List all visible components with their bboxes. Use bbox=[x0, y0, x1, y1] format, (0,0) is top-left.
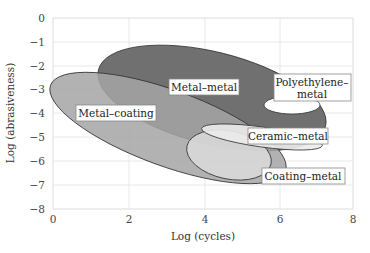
svg-text:4: 4 bbox=[202, 213, 209, 225]
svg-text:−1: −1 bbox=[30, 36, 45, 48]
svg-text:−5: −5 bbox=[30, 131, 45, 143]
y-axis-ticks: 0 −1 −2 −3 −4 −5 −6 −7 −8 bbox=[30, 12, 46, 215]
label-metal-coating: Metal–coating bbox=[78, 107, 154, 119]
y-axis-label: Log (abrasiveness) bbox=[4, 63, 16, 163]
svg-text:0: 0 bbox=[38, 12, 45, 24]
x-axis-ticks: 0 2 4 6 8 bbox=[50, 213, 357, 225]
svg-text:2: 2 bbox=[126, 213, 133, 225]
svg-text:−4: −4 bbox=[30, 107, 46, 119]
label-polyethylene-metal-line1: Polyethylene– bbox=[275, 76, 348, 88]
svg-text:−6: −6 bbox=[30, 155, 46, 167]
label-polyethylene-metal-line2: metal bbox=[297, 88, 328, 100]
svg-text:6: 6 bbox=[277, 213, 284, 225]
chart-canvas: Metal–coating Metal–metal Polyethylene– … bbox=[0, 0, 370, 253]
svg-text:−3: −3 bbox=[30, 83, 45, 95]
svg-text:0: 0 bbox=[50, 213, 57, 225]
label-coating-metal: Coating–metal bbox=[265, 170, 343, 182]
svg-text:8: 8 bbox=[350, 213, 357, 225]
label-metal-metal: Metal–metal bbox=[171, 81, 238, 93]
label-ceramic-metal: Ceramic–metal bbox=[248, 130, 329, 142]
svg-text:−7: −7 bbox=[30, 179, 45, 191]
svg-text:−8: −8 bbox=[30, 203, 45, 215]
x-axis-label: Log (cycles) bbox=[171, 230, 235, 242]
svg-text:−2: −2 bbox=[30, 60, 45, 72]
